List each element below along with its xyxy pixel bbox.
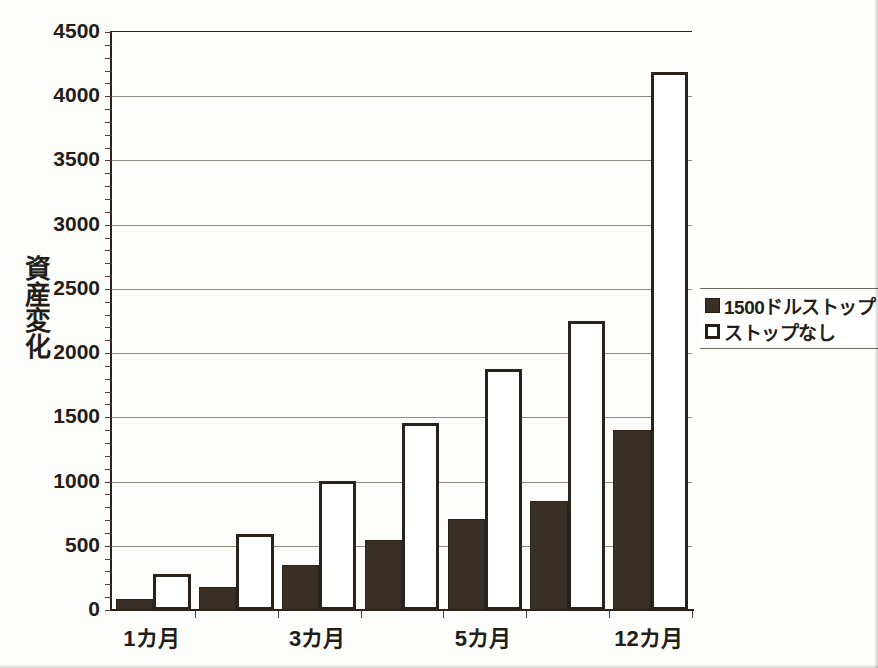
bar <box>485 369 522 610</box>
x-axis-tick-labels: 1カ月3カ月5カ月12カ月 <box>110 620 690 660</box>
x-tick-label: 3カ月 <box>289 620 345 652</box>
x-tick <box>692 610 693 618</box>
y-minor-tick <box>105 71 112 72</box>
plot-area <box>110 31 692 610</box>
y-minor-tick <box>105 96 112 97</box>
y-minor-tick <box>105 225 112 226</box>
y-tick-label: 2000 <box>38 340 100 364</box>
y-minor-tick <box>105 520 112 521</box>
y-minor-tick <box>105 212 112 213</box>
y-minor-tick <box>105 327 112 328</box>
x-tick <box>361 610 362 618</box>
y-minor-tick <box>105 430 112 431</box>
bar-chart: 資産変化 05001000150020002500300035004000450… <box>0 0 878 668</box>
legend-label-1: ストップなし <box>724 318 835 345</box>
bar <box>365 540 402 610</box>
bar <box>402 423 439 610</box>
legend-entry-0[interactable]: 1500ドルストップ <box>700 292 878 318</box>
y-tick-label: 3500 <box>38 147 100 171</box>
bar <box>153 574 190 610</box>
y-minor-tick <box>105 148 112 149</box>
y-minor-tick <box>105 559 112 560</box>
y-minor-tick <box>105 122 112 123</box>
y-tick-label: 500 <box>38 533 100 557</box>
y-minor-tick <box>105 507 112 508</box>
y-minor-tick <box>105 289 112 290</box>
y-minor-tick <box>105 597 112 598</box>
x-tick <box>443 610 444 618</box>
y-minor-tick <box>105 263 112 264</box>
y-minor-tick <box>105 392 112 393</box>
y-minor-tick <box>105 404 112 405</box>
y-minor-tick <box>105 366 112 367</box>
y-tick-label: 1000 <box>38 469 100 493</box>
y-minor-tick <box>105 238 112 239</box>
y-tick-label: 4500 <box>38 19 100 43</box>
y-tick-label: 1500 <box>38 404 100 428</box>
legend: 1500ドルストップ ストップなし <box>700 288 878 349</box>
x-tick <box>278 610 279 618</box>
y-minor-tick <box>105 571 112 572</box>
y-minor-tick <box>105 250 112 251</box>
y-minor-tick <box>105 135 112 136</box>
y-minor-tick <box>105 340 112 341</box>
y-minor-tick <box>105 199 112 200</box>
legend-entry-1[interactable]: ストップなし <box>700 318 878 344</box>
bar <box>236 534 273 610</box>
bar <box>282 565 319 610</box>
y-minor-tick <box>105 45 112 46</box>
y-minor-tick <box>105 494 112 495</box>
y-minor-tick <box>105 417 112 418</box>
bar <box>568 321 605 610</box>
hollow-square-swatch <box>705 324 720 339</box>
bar <box>530 501 567 610</box>
y-minor-tick <box>105 58 112 59</box>
x-tick-label: 1カ月 <box>123 620 179 652</box>
x-tick <box>609 610 610 618</box>
y-minor-tick <box>105 160 112 161</box>
y-minor-tick <box>105 584 112 585</box>
y-minor-tick <box>105 173 112 174</box>
y-minor-tick <box>105 353 112 354</box>
y-minor-tick <box>105 533 112 534</box>
y-tick-label: 4000 <box>38 83 100 107</box>
y-tick-label: 3000 <box>38 212 100 236</box>
y-minor-tick <box>105 186 112 187</box>
y-minor-tick <box>105 109 112 110</box>
y-minor-tick <box>105 276 112 277</box>
bar <box>651 72 688 610</box>
y-minor-tick <box>105 482 112 483</box>
y-minor-tick <box>105 302 112 303</box>
x-tick-label: 12カ月 <box>614 620 682 652</box>
y-minor-tick <box>105 83 112 84</box>
filled-square-swatch <box>705 298 720 313</box>
y-minor-tick <box>105 32 112 33</box>
y-axis-tick-labels: 050010001500200025003000350040004500 <box>35 0 100 668</box>
x-tick <box>195 610 196 618</box>
y-tick-label: 0 <box>38 597 100 621</box>
bar <box>613 430 650 610</box>
y-minor-tick <box>105 315 112 316</box>
x-tick-label: 5カ月 <box>455 620 511 652</box>
x-tick <box>526 610 527 618</box>
bars-layer <box>112 32 692 610</box>
bar <box>448 519 485 610</box>
y-minor-tick <box>105 443 112 444</box>
bar <box>199 587 236 610</box>
y-minor-tick <box>105 456 112 457</box>
y-tick-label: 2500 <box>38 276 100 300</box>
y-minor-tick <box>105 469 112 470</box>
bar <box>319 481 356 610</box>
legend-label-0: 1500ドルストップ <box>724 292 875 319</box>
x-axis-line <box>110 609 694 611</box>
y-minor-tick <box>105 546 112 547</box>
y-minor-tick <box>105 379 112 380</box>
